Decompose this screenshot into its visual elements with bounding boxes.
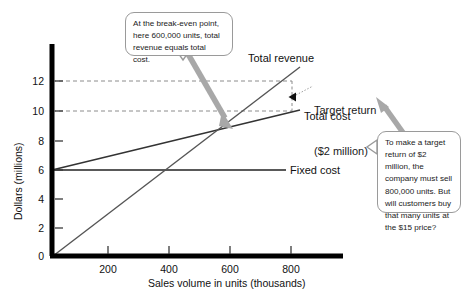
x-tick-label-600: 600 — [210, 263, 250, 275]
y-tick-label-4: 4 — [22, 193, 44, 205]
y-tick-label-8: 8 — [22, 135, 44, 147]
total-cost-line — [52, 110, 300, 170]
x-tick-label-200: 200 — [88, 263, 128, 275]
break-even-chart: 12 10 8 6 4 2 0 200 400 600 800 Sales vo… — [0, 0, 468, 297]
target-return-line-2: ($2 million) — [314, 145, 376, 159]
x-axis-ticks — [108, 246, 291, 254]
x-tick-label-400: 400 — [149, 263, 189, 275]
callout-break-even: At the break-even point, here 600,000 un… — [125, 12, 233, 56]
target-return-leader — [296, 86, 313, 95]
y-tick-label-6: 6 — [22, 164, 44, 176]
y-tick-label-2: 2 — [22, 222, 44, 234]
annotation-target-return: Target return ($2 million) — [314, 76, 376, 186]
y-tick-label-10: 10 — [22, 105, 44, 117]
y-tick-label-12: 12 — [22, 75, 44, 87]
series-label-total-revenue: Total revenue — [248, 52, 314, 65]
y-axis-ticks — [55, 81, 63, 228]
target-return-line-1: Target return — [314, 104, 376, 118]
y-tick-label-0: 0 — [22, 250, 44, 262]
callout-target-return: To make a target return of $2 million, t… — [377, 131, 461, 213]
x-axis-title: Sales volume in units (thousands) — [148, 277, 306, 289]
callout-breakeven-arrow-icon — [184, 47, 233, 129]
callout-target-arrow-icon — [376, 97, 404, 134]
x-tick-label-800: 800 — [271, 263, 311, 275]
y-axis-title: Dollars (millions) — [12, 136, 24, 226]
